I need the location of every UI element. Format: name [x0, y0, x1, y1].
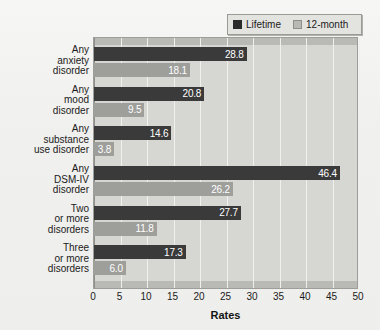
- bar-value-label: 27.7: [219, 207, 238, 218]
- category-label-line: disorder: [0, 106, 89, 117]
- bar-value-label: 14.6: [150, 128, 169, 139]
- category-label-line: disorder: [0, 185, 89, 196]
- category-label: Twoor moredisorders: [0, 204, 89, 236]
- bar-value-label: 9.5: [128, 104, 141, 115]
- legend-label-12-month: 12-month: [306, 19, 348, 30]
- bar-lifetime[interactable]: 28.8: [94, 47, 247, 61]
- bar-value-label: 11.8: [136, 223, 154, 234]
- bar-value-label: 17.3: [164, 247, 183, 258]
- chart-legend: Lifetime 12-month: [227, 14, 362, 35]
- category-label: Anymooddisorder: [0, 85, 89, 117]
- bar-value-label: 28.8: [225, 49, 244, 60]
- bar-value-label: 18.1: [168, 65, 187, 76]
- x-tick-10: 10: [140, 291, 151, 303]
- bar-12-month[interactable]: 26.2: [94, 182, 233, 196]
- bar-value-label: 20.8: [183, 88, 202, 99]
- category-label: Anyanxietydisorder: [0, 45, 89, 77]
- bar-12-month[interactable]: 6.0: [94, 261, 126, 275]
- x-axis-title: Rates: [93, 309, 358, 321]
- bar-value-label: 6.0: [109, 263, 122, 274]
- bar-value-label: 46.4: [318, 168, 337, 179]
- x-tick-30: 30: [246, 291, 257, 303]
- x-tick-20: 20: [193, 291, 204, 303]
- category-label-line: Any: [0, 45, 89, 56]
- category-label-line: disorders: [0, 225, 89, 236]
- category-label: Anysubstanceuse disorder: [0, 124, 89, 156]
- category-label: AnyDSM-IVdisorder: [0, 164, 89, 196]
- x-tick-0: 0: [90, 291, 96, 303]
- bar-lifetime[interactable]: 27.7: [94, 206, 241, 220]
- bar-group: 28.818.1: [94, 45, 357, 85]
- category-label: Threeor moredisorders: [0, 243, 89, 275]
- light-swatch-icon: [293, 20, 302, 29]
- x-tick-45: 45: [326, 291, 337, 303]
- bar-group: 27.711.8: [94, 204, 357, 244]
- bar-group: 14.63.8: [94, 124, 357, 164]
- chart-figure: Lifetime 12-month AnyanxietydisorderAnym…: [0, 0, 380, 330]
- y-axis-category-labels: AnyanxietydisorderAnymooddisorderAnysubs…: [0, 44, 89, 282]
- bar-group: 17.36.0: [94, 243, 357, 283]
- x-tick-35: 35: [273, 291, 284, 303]
- bar-12-month[interactable]: 3.8: [94, 142, 114, 156]
- bar-lifetime[interactable]: 46.4: [94, 166, 340, 180]
- bar-lifetime[interactable]: 17.3: [94, 245, 186, 259]
- bar-12-month[interactable]: 9.5: [94, 103, 144, 117]
- x-tick-25: 25: [220, 291, 231, 303]
- bar-group: 20.89.5: [94, 85, 357, 125]
- gridline-50: [359, 38, 360, 288]
- bar-group: 46.426.2: [94, 164, 357, 204]
- x-tick-5: 5: [117, 291, 123, 303]
- bar-lifetime[interactable]: 20.8: [94, 87, 204, 101]
- legend-entry-lifetime[interactable]: Lifetime: [233, 19, 281, 30]
- x-tick-15: 15: [167, 291, 178, 303]
- bar-lifetime[interactable]: 14.6: [94, 126, 171, 140]
- category-label-line: Any: [0, 164, 89, 175]
- x-axis-tick-labels: 05101520253035404550: [93, 291, 358, 305]
- category-label-line: disorders: [0, 264, 89, 275]
- legend-entry-12-month[interactable]: 12-month: [293, 19, 348, 30]
- legend-label-lifetime: Lifetime: [246, 19, 281, 30]
- category-label-line: use disorder: [0, 145, 89, 156]
- bar-12-month[interactable]: 11.8: [94, 222, 157, 236]
- category-label-line: disorder: [0, 66, 89, 77]
- bars-layer: 28.818.120.89.514.63.846.426.227.711.817…: [94, 45, 357, 283]
- dark-swatch-icon: [233, 20, 242, 29]
- bar-value-label: 26.2: [211, 184, 230, 195]
- bar-value-label: 3.8: [98, 144, 111, 155]
- plot-area: 28.818.120.89.514.63.846.426.227.711.817…: [93, 37, 358, 289]
- x-tick-50: 50: [352, 291, 363, 303]
- x-tick-40: 40: [299, 291, 310, 303]
- bar-12-month[interactable]: 18.1: [94, 63, 190, 77]
